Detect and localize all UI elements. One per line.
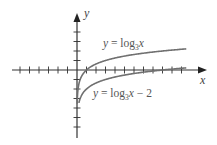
- label-eq: = log: [108, 37, 135, 50]
- log-graph: x y y = log3x y = log3x − 2: [0, 0, 217, 145]
- y-axis-label: y: [83, 6, 90, 20]
- label-eq: = log: [98, 87, 125, 100]
- axis-ticks: [20, 32, 182, 127]
- series-label-log3x: y = log3x: [102, 37, 145, 52]
- label-suffix: − 2: [134, 87, 152, 99]
- label-var: x: [138, 37, 145, 49]
- y-axis-arrow-icon: [74, 13, 81, 22]
- series-label-log3x-minus-2: y = log3x − 2: [92, 87, 152, 102]
- x-axis-label: x: [199, 73, 206, 87]
